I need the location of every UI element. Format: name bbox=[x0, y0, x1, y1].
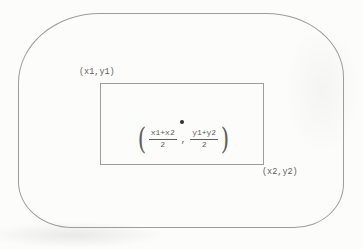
midpoint-formula: ( x1+x2 2 , y1+y2 2 ) bbox=[136, 124, 231, 153]
fraction-x-numerator: x1+x2 bbox=[149, 128, 177, 140]
fraction-y-denominator: 2 bbox=[190, 140, 218, 150]
corner-label-top-left: (x1,y1) bbox=[79, 67, 115, 77]
diagram-canvas: (x1,y1) (x2,y2) ( x1+x2 2 , y1+y2 2 ) bbox=[0, 0, 362, 249]
open-paren: ( bbox=[138, 124, 146, 153]
fraction-y-numerator: y1+y2 bbox=[190, 128, 218, 140]
fraction-y: y1+y2 2 bbox=[190, 128, 218, 150]
fraction-x-denominator: 2 bbox=[149, 140, 177, 150]
comma-separator: , bbox=[181, 135, 186, 145]
corner-label-bottom-right: (x2,y2) bbox=[262, 167, 298, 177]
close-paren: ) bbox=[221, 124, 229, 153]
fraction-x: x1+x2 2 bbox=[149, 128, 177, 150]
